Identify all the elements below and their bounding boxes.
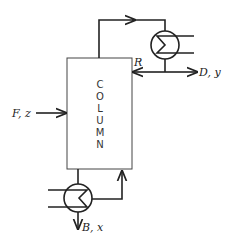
distillate-label: D, y [198, 66, 221, 79]
condenser-icon [151, 31, 194, 59]
overhead-vapor-line-cont [132, 20, 165, 31]
column-letter: L [97, 103, 103, 114]
reflux-label: R [133, 56, 142, 69]
column-letter: N [96, 139, 103, 150]
column-letter: U [96, 115, 103, 126]
column-letter: O [96, 91, 104, 102]
column-label: C O L U M N [96, 79, 105, 150]
feed-label: F, z [11, 107, 31, 120]
reboiler-icon [48, 184, 92, 212]
column-letter: M [96, 127, 105, 138]
boilup-return-line [92, 171, 122, 199]
overhead-vapor-line [99, 20, 135, 58]
distillation-diagram: C O L U M N R D, y F, z B, x [0, 0, 231, 239]
column-letter: C [97, 79, 104, 90]
bottoms-label: B, x [81, 221, 104, 234]
